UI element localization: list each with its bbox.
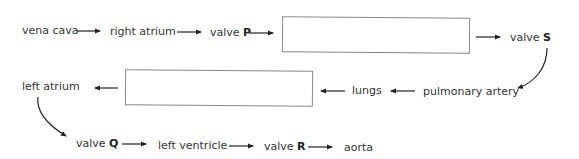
label-valve-r: valve R: [264, 140, 306, 153]
label-left-atrium: left atrium: [22, 80, 80, 93]
valve-s-prefix: valve: [510, 31, 543, 44]
valve-p-letter: P: [243, 26, 251, 39]
blank-answer-box-1[interactable]: [282, 16, 470, 54]
label-right-atrium: right atrium: [110, 25, 176, 38]
valve-r-letter: R: [297, 140, 305, 153]
valve-p-prefix: valve: [210, 26, 243, 39]
label-valve-p: valve P: [210, 26, 251, 39]
valve-s-letter: S: [543, 31, 551, 44]
label-valve-q: valve Q: [76, 137, 118, 150]
blank-answer-box-2[interactable]: [125, 69, 313, 107]
valve-q-letter: Q: [109, 137, 118, 150]
curved-arrow-icon: [518, 48, 547, 88]
label-vena-cava: vena cava: [22, 24, 79, 37]
valve-q-prefix: valve: [76, 137, 109, 150]
label-aorta: aorta: [344, 141, 373, 154]
label-left-ventricle: left ventricle: [158, 139, 227, 152]
valve-r-prefix: valve: [264, 140, 297, 153]
label-pulmonary-artery: pulmonary artery: [423, 85, 519, 98]
label-valve-s: valve S: [510, 31, 551, 44]
curved-arrow-icon: [38, 97, 66, 136]
label-lungs: lungs: [352, 84, 382, 97]
